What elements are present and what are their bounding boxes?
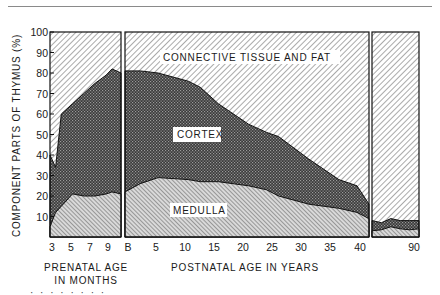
panel-prenatal bbox=[50, 32, 121, 237]
x-tick-label: 35 bbox=[324, 241, 336, 253]
y-tick-label: 30 bbox=[36, 170, 48, 182]
x-tick-label: 40 bbox=[354, 241, 366, 253]
y-axis-label: COMPONENT PARTS OF THYMUS (%) bbox=[11, 34, 22, 237]
x-tick-label: 15 bbox=[208, 241, 220, 253]
y-tick-label: 80 bbox=[36, 67, 48, 79]
x-tick-label: 20 bbox=[237, 241, 249, 253]
x-axis-ticks: 3579B51015202530354090 bbox=[49, 241, 420, 253]
x-tick-label: 10 bbox=[179, 241, 191, 253]
y-tick-label: 20 bbox=[36, 190, 48, 202]
x-tick-label: 3 bbox=[49, 241, 55, 253]
x-tick-label: 7 bbox=[87, 241, 93, 253]
region-label-medulla: MEDULLA bbox=[173, 205, 226, 216]
y-tick-label: 50 bbox=[36, 129, 48, 141]
x-tick-label: 30 bbox=[295, 241, 307, 253]
region-label-connective: CONNECTIVE TISSUE AND FAT bbox=[163, 52, 331, 63]
y-tick-label: 70 bbox=[36, 88, 48, 100]
y-tick-label: 90 bbox=[36, 47, 48, 59]
caption-fragment: · · · · · · · · bbox=[30, 283, 106, 295]
y-tick-label: 40 bbox=[36, 149, 48, 161]
y-tick-label: 100 bbox=[30, 26, 48, 38]
x-tick-label: 5 bbox=[153, 241, 159, 253]
x-label-prenatal-line1: PRENATAL AGE bbox=[44, 262, 128, 273]
y-tick-label: 60 bbox=[36, 108, 48, 120]
x-tick-label: 25 bbox=[266, 241, 278, 253]
x-tick-label: B bbox=[124, 241, 131, 253]
region-label-cortex: CORTEX bbox=[177, 129, 223, 140]
x-tick-label: 5 bbox=[68, 241, 74, 253]
x-tick-label: 90 bbox=[408, 241, 420, 253]
y-tick-label: 10 bbox=[36, 211, 48, 223]
thymus-composition-chart: CONNECTIVE TISSUE AND FAT CORTEX MEDULLA… bbox=[0, 0, 440, 295]
x-label-postnatal: POSTNATAL AGE IN YEARS bbox=[171, 262, 319, 273]
panel-postnatal-late bbox=[372, 32, 419, 237]
x-tick-label: 9 bbox=[105, 241, 111, 253]
